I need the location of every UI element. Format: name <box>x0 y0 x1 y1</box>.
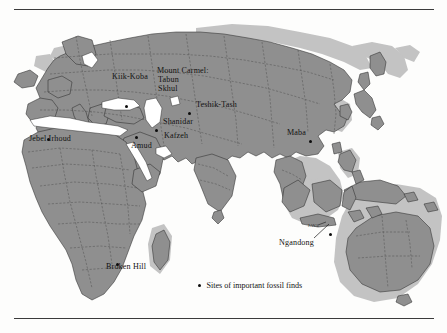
site-label-tabun: Tabun <box>158 75 179 84</box>
top-rule <box>14 9 434 10</box>
site-label-mount-carmel: Mount Carmel: <box>157 66 209 75</box>
site-label-kafzeh: Kafzeh <box>164 131 188 140</box>
map-figure: Kiik-Koba Mount Carmel: Tabun Skhul Tesh… <box>0 0 447 333</box>
site-label-jebel-irhoud: Jebel Irhoud <box>29 134 71 143</box>
site-label-teshik-tash: Teshik-Tash <box>196 100 237 109</box>
legend: Sites of important fossil finds <box>198 281 302 290</box>
site-label-skhul: Skhul <box>158 84 178 93</box>
site-label-broken-hill: Broken Hill <box>106 262 146 271</box>
site-label-ngandong: Ngandong <box>279 238 314 247</box>
site-label-maba: Maba <box>287 128 306 137</box>
legend-marker-icon <box>198 284 201 287</box>
legend-label: Sites of important fossil finds <box>206 281 302 290</box>
site-label-amud: Amud <box>131 141 152 150</box>
africa-landmass <box>22 128 146 300</box>
bottom-rule <box>14 318 434 319</box>
landmass-layer <box>14 32 438 306</box>
region-label-java: JAVA <box>308 221 319 230</box>
world-map-graphic <box>0 12 447 312</box>
site-label-kiik-koba: Kiik-Koba <box>112 72 148 81</box>
site-label-shanidar: Shanidar <box>163 117 193 126</box>
